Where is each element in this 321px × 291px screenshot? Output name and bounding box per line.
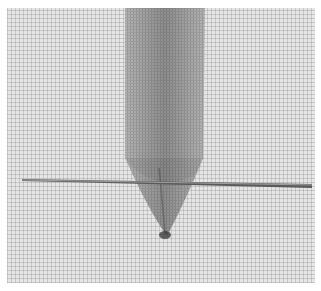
ribbon-and-needle-illustration (7, 8, 315, 283)
photograph (7, 8, 315, 283)
ribbon (125, 8, 205, 239)
